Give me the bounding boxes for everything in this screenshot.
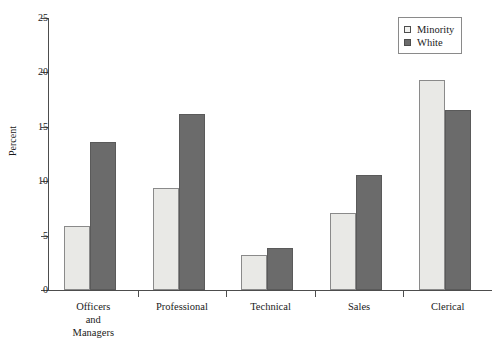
x-tick-mark [315, 290, 316, 297]
legend-swatch-white-icon [404, 39, 411, 46]
x-label-line: Officers [49, 300, 138, 313]
x-tick-mark [138, 290, 139, 297]
bar-white[interactable] [90, 142, 116, 290]
bar-group [49, 18, 138, 290]
bar-minority[interactable] [241, 255, 267, 290]
bar-minority[interactable] [153, 188, 179, 290]
x-label-line: Clerical [403, 300, 492, 313]
y-tick-label: 0 [14, 285, 48, 295]
y-tick-label: 20 [14, 67, 48, 77]
x-label-line: Managers [49, 326, 138, 339]
bar-white[interactable] [356, 175, 382, 290]
bar-group [226, 18, 315, 290]
bar-group [315, 18, 404, 290]
bar-white[interactable] [267, 248, 293, 290]
bar-minority[interactable] [419, 80, 445, 290]
y-tick-label: 25 [14, 13, 48, 23]
chart-legend: Minority White [398, 17, 462, 54]
plot-area [49, 18, 492, 290]
legend-swatch-minority-icon [404, 26, 411, 33]
y-tick-label: 5 [14, 231, 48, 241]
x-label-professional: Professional [138, 300, 227, 313]
bar-group [138, 18, 227, 290]
x-tick-mark [403, 290, 404, 297]
x-label-line: Technical [226, 300, 315, 313]
bar-white[interactable] [445, 110, 471, 290]
x-tick-mark [226, 290, 227, 297]
legend-item-minority[interactable]: Minority [404, 23, 454, 35]
bar-group [403, 18, 492, 290]
y-tick-label: 10 [14, 176, 48, 186]
y-tick-label: 15 [14, 122, 48, 132]
bar-white[interactable] [179, 114, 205, 290]
bar-chart: Percent 0510152025 OfficersandManagersPr… [0, 0, 501, 347]
x-label-line: and [49, 313, 138, 326]
legend-label-white: White [417, 37, 443, 48]
x-axis-line [48, 290, 492, 291]
bar-minority[interactable] [64, 226, 90, 290]
legend-label-minority: Minority [417, 24, 454, 35]
legend-item-white[interactable]: White [404, 36, 454, 48]
x-label-technical: Technical [226, 300, 315, 313]
x-label-line: Professional [138, 300, 227, 313]
x-label-officers-and-managers: OfficersandManagers [49, 300, 138, 339]
x-label-line: Sales [315, 300, 404, 313]
x-label-clerical: Clerical [403, 300, 492, 313]
x-label-sales: Sales [315, 300, 404, 313]
bar-minority[interactable] [330, 213, 356, 290]
